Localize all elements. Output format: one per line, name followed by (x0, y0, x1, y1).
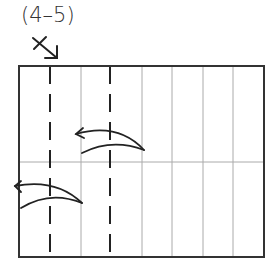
x-arrow-icon (33, 37, 57, 58)
fold-arrow-lower-icon (15, 181, 82, 208)
crease-lines (19, 66, 264, 257)
fold-arrow-upper-icon (76, 128, 144, 153)
origami-diagram (0, 0, 273, 278)
